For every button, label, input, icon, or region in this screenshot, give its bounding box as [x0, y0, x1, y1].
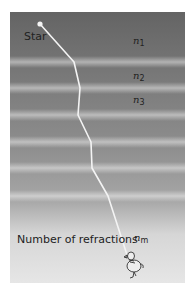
layer-label-n1: n1: [133, 36, 145, 48]
number-of-refractions-label: Number of refractions: [17, 234, 138, 245]
star-icon: [37, 21, 42, 26]
layer-label-n2: n2: [133, 71, 145, 83]
star-label: Star: [24, 31, 47, 42]
ray-diagram: [0, 0, 193, 296]
layer-label-n3: n3: [133, 95, 145, 107]
layer-label-nm: nm: [134, 233, 148, 245]
light-ray-path: [40, 24, 128, 258]
duck-icon: [124, 252, 143, 278]
